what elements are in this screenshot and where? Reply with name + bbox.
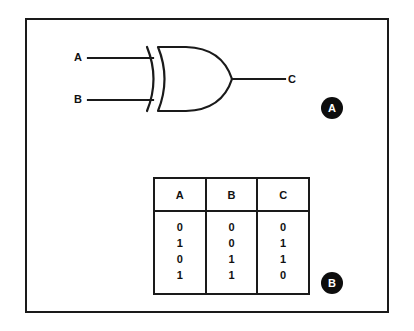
- truth-table-column-a: A 0 1 0 1: [155, 179, 207, 293]
- panel-badge-a: A: [321, 97, 343, 119]
- truth-table-cell: 1: [280, 251, 286, 267]
- truth-table-cell: 0: [177, 219, 183, 235]
- input-label-b: B: [74, 94, 82, 105]
- panel-badge-b: B: [321, 272, 343, 294]
- truth-table-body-b: 0 0 1 1: [207, 212, 257, 293]
- truth-table-cell: 0: [177, 251, 183, 267]
- truth-table-cell: 0: [228, 235, 234, 251]
- truth-table-header-c: C: [258, 179, 308, 212]
- truth-table-column-b: B 0 0 1 1: [207, 179, 259, 293]
- truth-table-header-b: B: [207, 179, 257, 212]
- truth-table-body-a: 0 1 0 1: [155, 212, 205, 293]
- truth-table-column-c: C 0 1 1 0: [258, 179, 308, 293]
- truth-table-cell: 1: [228, 267, 234, 283]
- truth-table-cell: 0: [228, 219, 234, 235]
- truth-table-body-c: 0 1 1 0: [258, 212, 308, 293]
- truth-table-cell: 1: [177, 235, 183, 251]
- truth-table-cell: 0: [280, 219, 286, 235]
- truth-table: A 0 1 0 1 B 0 0 1 1 C 0 1 1 0: [153, 177, 310, 295]
- truth-table-cell: 0: [280, 267, 286, 283]
- input-label-a: A: [74, 52, 82, 63]
- truth-table-header-a: A: [155, 179, 205, 212]
- output-label-c: C: [288, 74, 296, 85]
- truth-table-cell: 1: [228, 251, 234, 267]
- truth-table-cell: 1: [280, 235, 286, 251]
- truth-table-cell: 1: [177, 267, 183, 283]
